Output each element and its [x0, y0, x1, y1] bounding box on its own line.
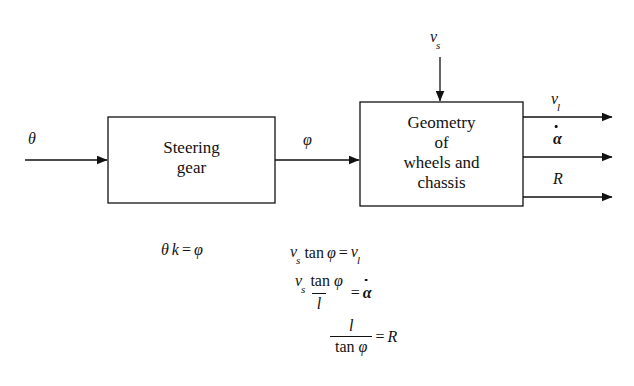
R-glyph: R	[553, 170, 563, 187]
eq2-v-sub: s	[296, 254, 300, 266]
label-output-vl: vl	[551, 90, 561, 110]
label-input-theta: θ	[28, 130, 36, 148]
label-output-alphadot: α	[553, 130, 562, 148]
label-output-R: R	[553, 170, 563, 188]
eq3-fraction: vs tan φ l	[290, 272, 348, 313]
eq4-phi: φ	[359, 338, 368, 355]
theta-glyph: θ	[28, 130, 36, 147]
diagram-canvas	[0, 0, 634, 386]
label-input-vs: vs	[430, 28, 441, 48]
eq3-numerator: vs tan φ	[290, 272, 348, 293]
eq2-rhs-sub: l	[357, 254, 360, 266]
label-phi: φ	[303, 131, 312, 149]
eq3-phi: φ	[334, 272, 343, 289]
eq2-phi: φ	[327, 244, 336, 262]
block-geometry-label: Geometry of wheels and chassis	[360, 113, 523, 193]
vs-sub-glyph: s	[436, 39, 440, 51]
eq3-tan: tan	[310, 272, 330, 289]
equation-R: l tan φ = R	[330, 317, 397, 356]
equation-vl: vs tan φ = vl	[290, 243, 361, 263]
eq1-theta: θ	[161, 241, 169, 259]
eq3-v-sub: s	[301, 283, 305, 295]
eq3-alpha-dot: α	[363, 284, 372, 302]
phi-glyph: φ	[303, 131, 312, 148]
eq4-denominator: tan φ	[330, 336, 372, 356]
vl-sub-glyph: l	[557, 101, 560, 113]
alpha-dot-glyph: α	[553, 130, 562, 148]
eq3-equals: =	[351, 284, 360, 302]
block-steering-gear-label: Steering gear	[108, 138, 275, 178]
eq4-tan: tan	[335, 338, 355, 355]
eq3-denominator: l	[312, 293, 326, 313]
eq4-rhs: R	[387, 328, 397, 346]
eq4-numerator: l	[344, 317, 358, 336]
eq1-phi: φ	[194, 241, 203, 259]
eq2-equals: =	[339, 244, 348, 262]
equation-steering-gear: θk = φ	[161, 241, 203, 259]
equation-alphadot: vs tan φ l = α	[290, 272, 372, 313]
eq2-tan: tan	[304, 244, 324, 262]
eq4-equals: =	[375, 328, 384, 346]
eq1-k: k	[172, 241, 179, 259]
block-diagram: Steering gear Geometry of wheels and cha…	[0, 0, 634, 386]
eq1-equals: =	[182, 241, 191, 259]
eq4-fraction: l tan φ	[330, 317, 372, 356]
